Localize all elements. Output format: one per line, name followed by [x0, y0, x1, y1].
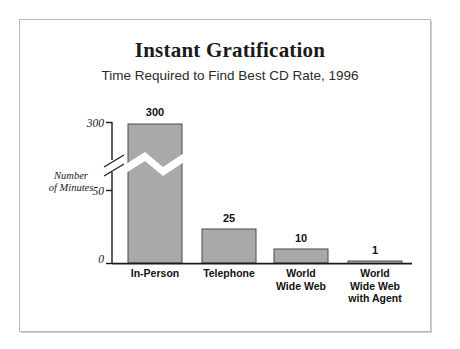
plot-area: Number of Minutes 300 50 0 — [0, 0, 460, 349]
category-label-in-person: In-Person — [117, 267, 193, 280]
category-label-in-person-line-1: In-Person — [117, 267, 193, 280]
category-label-telephone-line-1: Telephone — [191, 267, 267, 280]
category-label-world-wide-web: World Wide Web — [263, 267, 339, 292]
category-label-world-wide-web-with-agent: World Wide Web with Agent — [337, 267, 413, 305]
category-label-world-wide-web-line-2: Wide Web — [263, 280, 339, 293]
bar-world-wide-web — [274, 249, 328, 263]
bar-telephone — [202, 229, 256, 263]
category-label-world-wide-web-with-agent-line-3: with Agent — [337, 292, 413, 305]
bar-in-person — [128, 124, 182, 263]
category-label-world-wide-web-with-agent-line-2: Wide Web — [337, 280, 413, 293]
bar-value-in-person: 300 — [128, 106, 182, 118]
chart-page: Instant Gratification Time Required to F… — [0, 0, 460, 349]
bar-value-telephone: 25 — [202, 212, 256, 224]
category-label-telephone: Telephone — [191, 267, 267, 280]
bar-value-world-wide-web-with-agent: 1 — [348, 244, 402, 256]
category-label-world-wide-web-line-1: World — [263, 267, 339, 280]
category-label-world-wide-web-with-agent-line-1: World — [337, 267, 413, 280]
bar-value-world-wide-web: 10 — [274, 232, 328, 244]
